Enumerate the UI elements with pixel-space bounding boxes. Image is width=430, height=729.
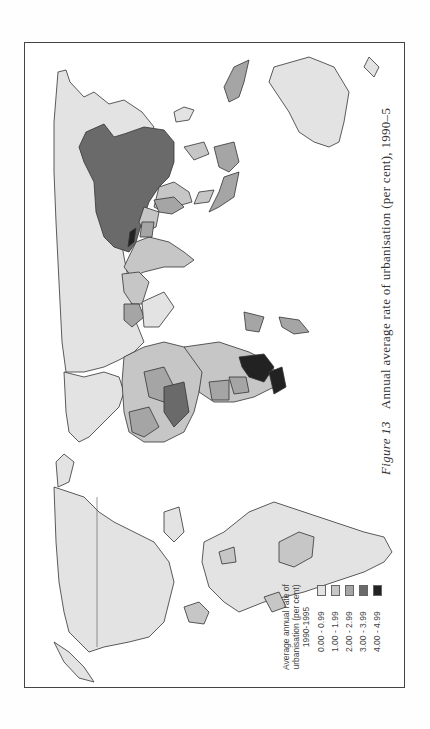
legend-swatch-4 <box>373 585 382 596</box>
figure-number: Figure 13 <box>378 421 393 475</box>
region-north-america <box>54 487 174 652</box>
legend-label-0: 0.00 - 0.99 <box>316 611 326 652</box>
region-europe <box>64 372 124 442</box>
legend-label-4: 4.00 - 4.99 <box>372 611 382 652</box>
legend-title: Average annual rate of urbanisation (per… <box>281 582 311 672</box>
legend-label-3: 3.00 - 3.99 <box>358 611 368 652</box>
legend-label-2: 2.00 - 2.99 <box>344 611 354 652</box>
legend-swatch-0 <box>317 585 326 596</box>
figure-title: Annual average rate of urbanisation (per… <box>378 108 393 409</box>
region-australia <box>269 57 349 147</box>
legend-title-line-1: Average annual rate of <box>281 582 291 672</box>
legend-title-line-3: 1990-1995 <box>301 582 311 672</box>
legend-swatch-2 <box>345 585 354 596</box>
legend-swatch-1 <box>331 585 340 596</box>
figure-caption: Figure 13Annual average rate of urbanisa… <box>378 108 394 475</box>
legend-swatch-3 <box>359 585 368 596</box>
legend-title-line-2: urbanisation (per cent) <box>291 582 301 672</box>
legend-label-1: 1.00 - 1.99 <box>330 611 340 652</box>
